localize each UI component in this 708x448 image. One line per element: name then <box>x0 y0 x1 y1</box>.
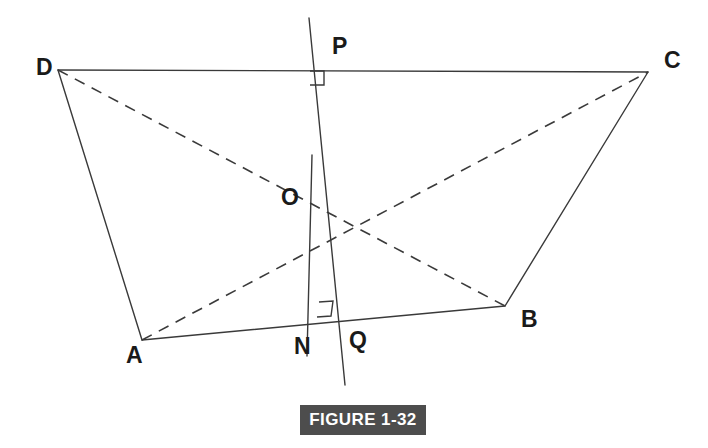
side-CB-line <box>505 72 648 306</box>
right-angle-icon-bottom <box>317 301 333 317</box>
diagonal-AC-dashed <box>142 72 648 340</box>
side-DA-line <box>58 70 142 340</box>
vertex-label-A: A <box>126 342 143 368</box>
diagonals <box>58 70 648 340</box>
vertex-label-O: O <box>281 184 299 210</box>
figure-caption-bar: FIGURE 1-32 <box>300 405 426 435</box>
vertex-label-B: B <box>521 306 538 332</box>
figure-container: D C A B O P N Q FIGURE 1-32 <box>0 0 708 448</box>
vertex-label-Q: Q <box>349 327 367 353</box>
right-angle-markers <box>310 71 333 317</box>
geometry-diagram: D C A B O P N Q <box>0 0 708 448</box>
vertex-label-N: N <box>294 333 311 359</box>
right-angle-icon-top <box>310 71 324 85</box>
side-DC-line <box>58 70 648 72</box>
figure-caption-text: FIGURE 1-32 <box>309 410 416 430</box>
vertex-label-P: P <box>332 33 347 59</box>
vertex-labels: D C A B O P N Q <box>36 33 681 368</box>
vertex-label-D: D <box>36 54 53 80</box>
vertex-label-C: C <box>664 47 681 73</box>
line-PQ-perpendicular <box>309 18 345 385</box>
line-ON-perpendicular <box>307 155 312 356</box>
